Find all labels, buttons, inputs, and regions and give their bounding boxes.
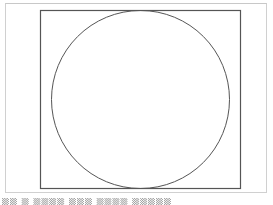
inscribed-circle bbox=[52, 11, 230, 189]
figure-caption-cropped: ▒▒ ▒ ▒▒▒▒ ▒▒▒ ▒▒▒▒ ▒▒▒▒▒ bbox=[2, 198, 272, 205]
diagram-canvas bbox=[0, 0, 273, 205]
bounding-rectangle bbox=[41, 11, 241, 189]
